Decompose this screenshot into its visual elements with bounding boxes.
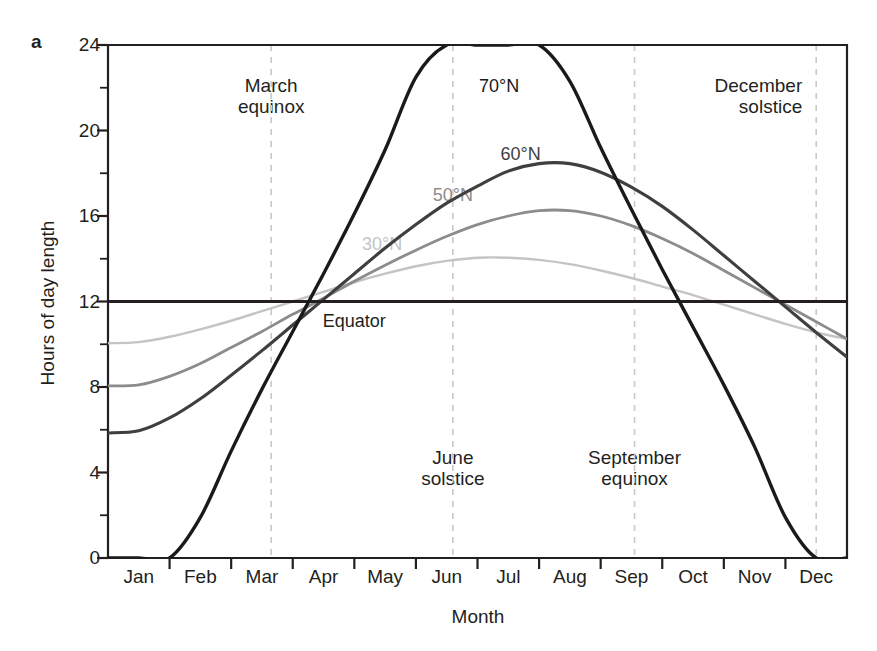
plot-canvas — [0, 0, 877, 651]
day-length-chart-figure: a Hours of day length Month 04812162024 … — [0, 0, 877, 651]
series-line-60n — [108, 163, 847, 433]
series-group — [108, 42, 847, 561]
series-line-50n — [108, 210, 847, 386]
